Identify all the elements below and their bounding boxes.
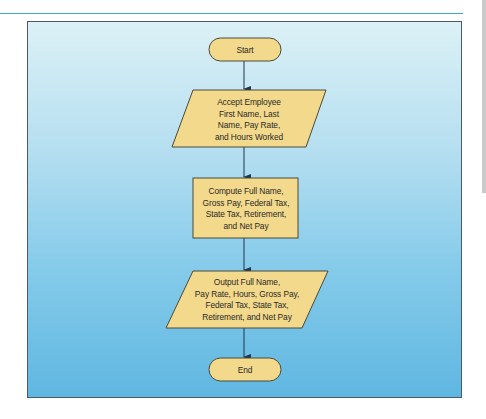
compute-label-line: Compute Full Name, — [184, 185, 307, 197]
input-label: Accept Employee First Name, Last Name, P… — [187, 96, 310, 142]
output-label-line: Retirement, and Net Pay — [177, 311, 318, 323]
input-label-line: Name, Pay Rate, — [187, 119, 310, 131]
compute-label-line: and Net Pay — [184, 220, 307, 232]
input-label-line: and Hours Worked — [187, 131, 310, 143]
compute-label: Compute Full Name, Gross Pay, Federal Ta… — [184, 185, 307, 231]
compute-label-line: State Tax, Retirement, — [184, 208, 307, 220]
output-label-line: Output Full Name, — [177, 276, 318, 288]
input-label-line: First Name, Last — [187, 108, 310, 120]
output-label: Output Full Name, Pay Rate, Hours, Gross… — [177, 276, 318, 322]
start-label: Start — [213, 44, 276, 56]
output-label-line: Pay Rate, Hours, Gross Pay, — [177, 288, 318, 300]
output-label-line: Federal Tax, State Tax, — [177, 299, 318, 311]
end-label: End — [213, 364, 276, 376]
input-label-line: Accept Employee — [187, 96, 310, 108]
compute-label-line: Gross Pay, Federal Tax, — [184, 197, 307, 209]
